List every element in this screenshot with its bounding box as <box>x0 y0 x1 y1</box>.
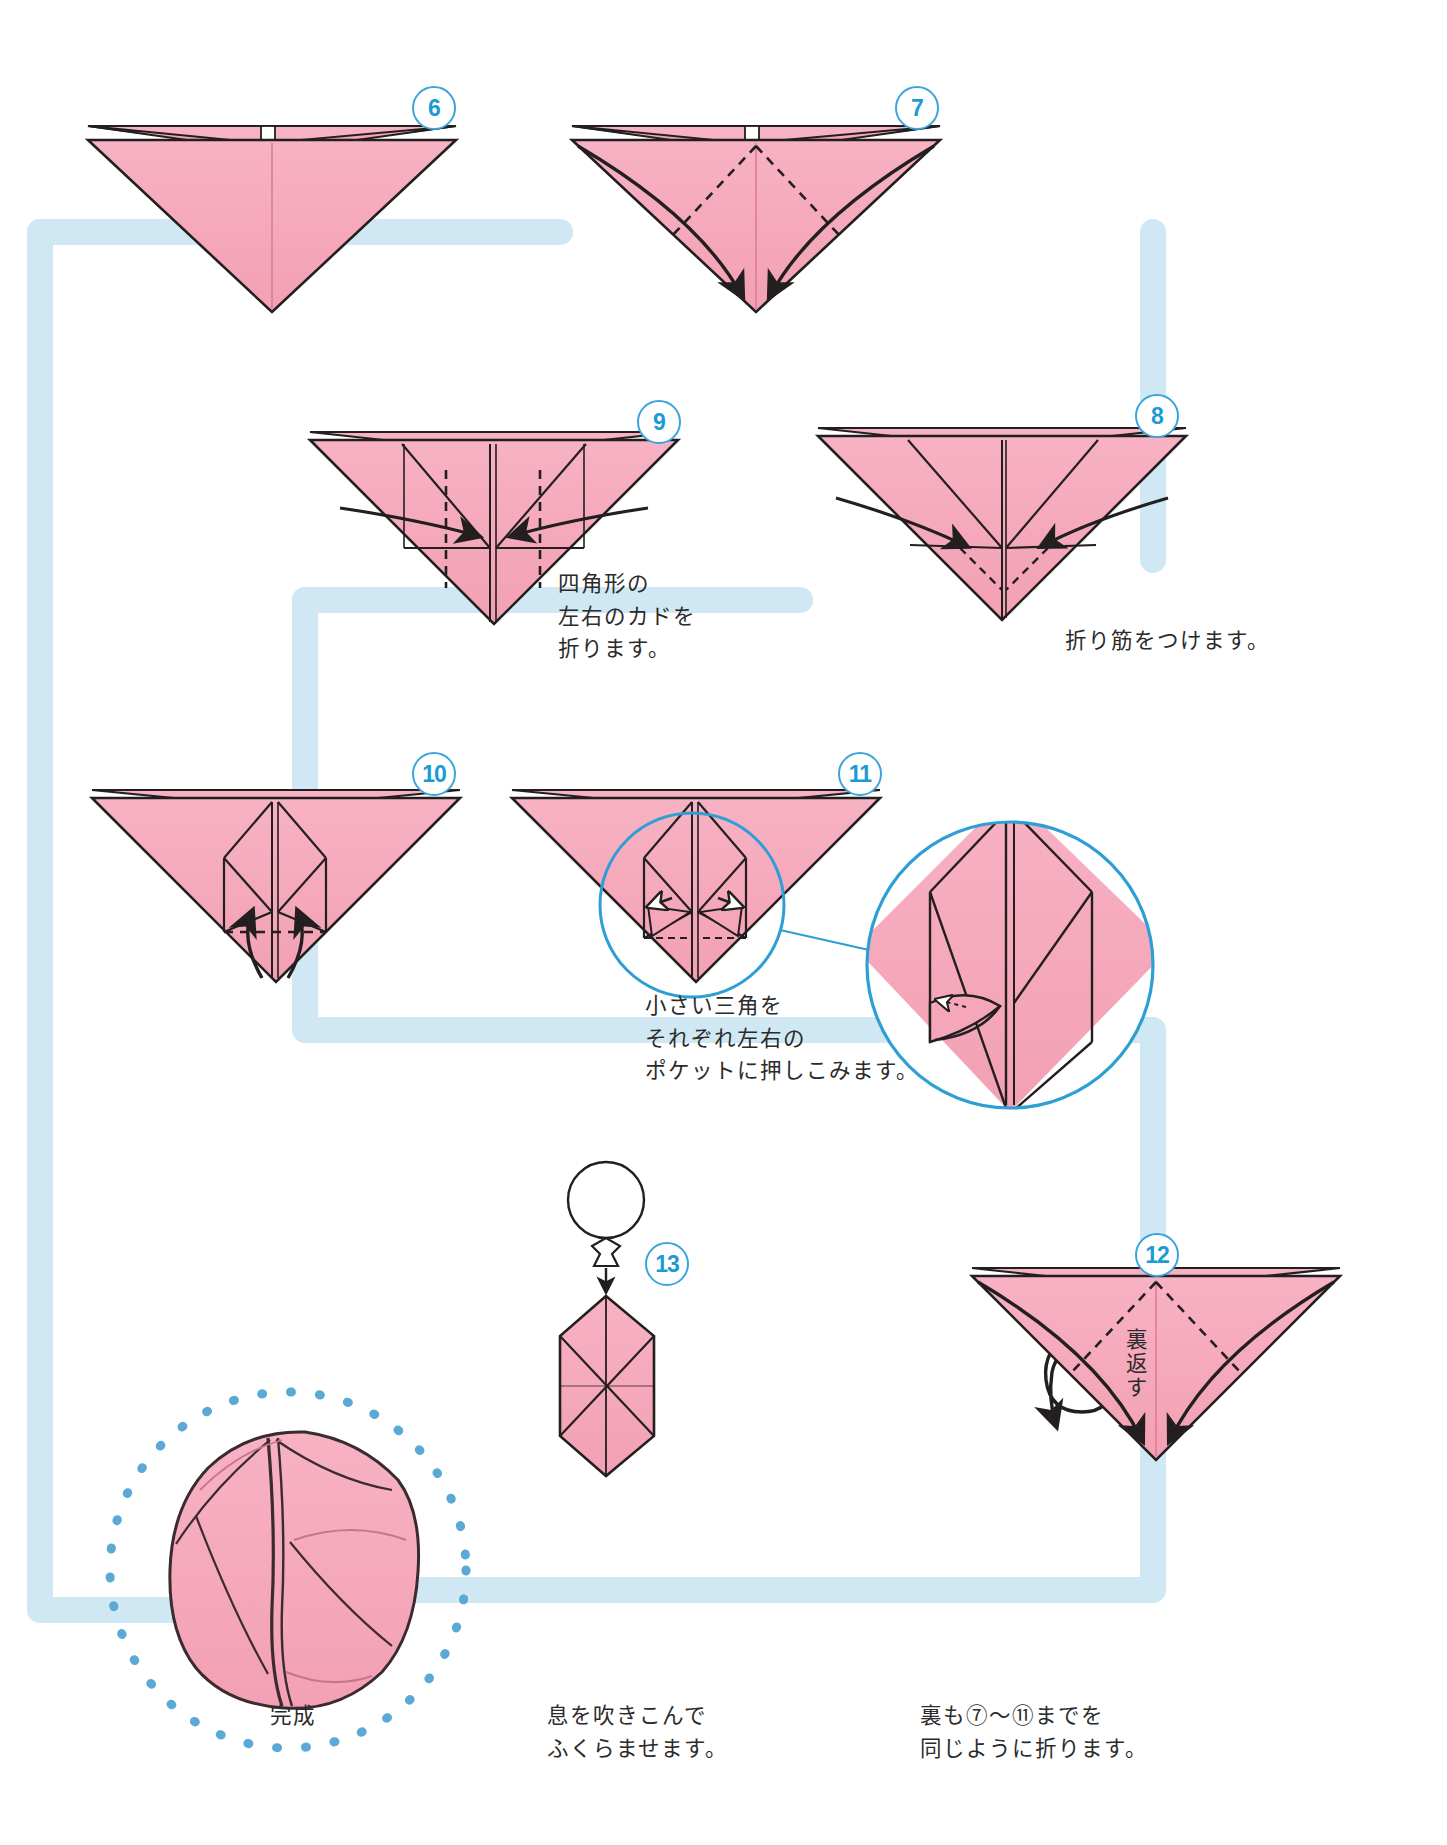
figure-step-10 <box>92 790 460 982</box>
figure-step-7 <box>572 126 940 312</box>
blow-balloon-icon <box>568 1162 644 1292</box>
caption-step-11: 小さい三角を それぞれ左右の ポケットに押しこみます。 <box>645 990 919 1088</box>
finished-balloon-figure <box>110 1392 466 1748</box>
step-badge-6[interactable]: 6 <box>412 86 456 130</box>
origami-figures <box>0 0 1447 1845</box>
caption-step-8: 折り筋をつけます。 <box>1065 625 1270 658</box>
figure-step-6 <box>88 126 456 312</box>
turn-over-label: 裏返す <box>1122 1328 1148 1400</box>
figure-step-13 <box>560 1162 654 1476</box>
caption-step-12: 裏も⑦〜⑪までを 同じように折ります。 <box>920 1700 1148 1765</box>
figure-step-8 <box>818 428 1186 620</box>
origami-diagram-page: 6 7 8 9 10 11 12 13 四角形の 左右のカドを 折ります。 折り… <box>0 0 1447 1845</box>
caption-step-9: 四角形の 左右のカドを 折ります。 <box>558 568 696 666</box>
step-badge-8[interactable]: 8 <box>1135 394 1179 438</box>
step-badge-10[interactable]: 10 <box>412 752 456 796</box>
detail-connector-line <box>780 930 878 952</box>
step-badge-9[interactable]: 9 <box>637 400 681 444</box>
caption-step-13: 息を吹きこんで ふくらませます。 <box>547 1700 728 1765</box>
figure-step-11 <box>512 790 880 982</box>
step-badge-11[interactable]: 11 <box>838 752 882 796</box>
figure-step-12 <box>972 1268 1340 1460</box>
finished-label: 完成 <box>248 1700 338 1733</box>
step-badge-12[interactable]: 12 <box>1135 1233 1179 1277</box>
step-badge-7[interactable]: 7 <box>895 86 939 130</box>
step-badge-13[interactable]: 13 <box>645 1242 689 1286</box>
